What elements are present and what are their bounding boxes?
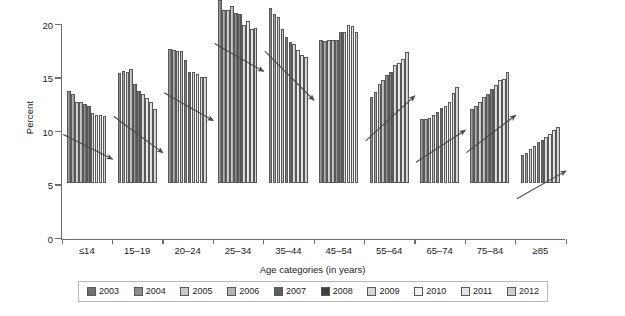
legend-item[interactable]: 2009 — [367, 287, 399, 296]
legend-item[interactable]: 2005 — [180, 287, 212, 296]
x-category-label: ≤14 — [79, 245, 95, 256]
legend-swatch-icon — [461, 287, 470, 296]
legend-swatch-icon — [134, 287, 143, 296]
x-tick — [515, 239, 516, 244]
bar — [153, 109, 157, 183]
x-tick — [213, 239, 214, 244]
legend-swatch-icon — [274, 287, 283, 296]
x-category-label: 65–74 — [426, 245, 452, 256]
x-category-label: 15–19 — [124, 245, 150, 256]
bar — [304, 57, 308, 183]
y-tick — [55, 131, 61, 132]
x-tick — [162, 239, 163, 244]
bar — [455, 87, 459, 183]
bar — [556, 127, 560, 183]
legend-label: 2010 — [426, 287, 446, 296]
y-tick-label: 0 — [27, 233, 53, 244]
legend-label: 2008 — [333, 287, 353, 296]
x-category-label: 25–34 — [225, 245, 251, 256]
x-tick — [465, 239, 466, 244]
legend-label: 2009 — [379, 287, 399, 296]
x-category-label: ≥85 — [533, 245, 549, 256]
legend-swatch-icon — [414, 287, 423, 296]
y-tick-label: 10 — [27, 126, 53, 137]
legend: 2003200420052006200720082009201020112012 — [78, 281, 548, 302]
x-tick — [314, 239, 315, 244]
legend-item[interactable]: 2010 — [414, 287, 446, 296]
x-tick — [364, 239, 365, 244]
legend-item[interactable]: 2011 — [461, 287, 492, 296]
legend-swatch-icon — [367, 287, 376, 296]
legend-label: 2007 — [286, 287, 306, 296]
bar-group-bars — [521, 0, 560, 183]
x-tick — [112, 239, 113, 244]
legend-label: 2006 — [239, 287, 259, 296]
x-category-label: 20–24 — [174, 245, 200, 256]
legend-item[interactable]: 2007 — [274, 287, 306, 296]
bar-group-bars — [420, 0, 459, 183]
bar-group-bars — [67, 0, 106, 183]
x-category-label: 75–84 — [477, 245, 503, 256]
x-category-label: 55–64 — [376, 245, 402, 256]
legend-swatch-icon — [227, 287, 236, 296]
bar-group-bars — [319, 0, 358, 183]
bar-group-bars — [370, 0, 409, 183]
legend-item[interactable]: 2004 — [134, 287, 166, 296]
bar — [405, 52, 409, 183]
legend-label: 2011 — [473, 287, 492, 296]
bar — [254, 28, 258, 183]
y-tick — [55, 24, 61, 25]
legend-item[interactable]: 2012 — [507, 287, 539, 296]
x-tick — [263, 239, 264, 244]
legend-label: 2012 — [519, 287, 539, 296]
bar — [355, 32, 359, 183]
y-axis-title: Percent — [24, 73, 35, 163]
legend-item[interactable]: 2006 — [227, 287, 259, 296]
x-tick — [62, 239, 63, 244]
x-category-label: 45–54 — [326, 245, 352, 256]
bar-group-bars — [269, 0, 308, 183]
legend-item[interactable]: 2008 — [321, 287, 353, 296]
y-tick-label: 5 — [27, 180, 53, 191]
x-tick — [414, 239, 415, 244]
bar — [506, 72, 510, 183]
x-category-label: 35–44 — [275, 245, 301, 256]
legend-swatch-icon — [507, 287, 516, 296]
x-axis-title: Age categories (in years) — [0, 264, 625, 275]
bar-group-bars — [470, 0, 509, 183]
y-tick — [55, 238, 61, 239]
y-tick — [55, 184, 61, 185]
bar-group-bars — [168, 0, 207, 183]
legend-swatch-icon — [321, 287, 330, 296]
y-tick-label: 20 — [27, 19, 53, 30]
legend-swatch-icon — [180, 287, 189, 296]
legend-item[interactable]: 2003 — [87, 287, 119, 296]
bar-group-bars — [218, 0, 257, 183]
chart-figure: Percent 05101520 ≤1415–1920–2425–3435–44… — [0, 0, 625, 316]
legend-label: 2005 — [192, 287, 212, 296]
y-axis-line — [61, 24, 62, 239]
legend-label: 2003 — [99, 287, 119, 296]
x-tick — [566, 239, 567, 244]
legend-label: 2004 — [146, 287, 166, 296]
legend-swatch-icon — [87, 287, 96, 296]
bar — [203, 77, 207, 183]
bar — [103, 116, 107, 183]
plot-area: Percent 05101520 ≤1415–1920–2425–3435–44… — [0, 0, 625, 260]
y-tick — [55, 77, 61, 78]
bar-group-bars — [118, 0, 157, 183]
y-tick-label: 15 — [27, 73, 53, 84]
